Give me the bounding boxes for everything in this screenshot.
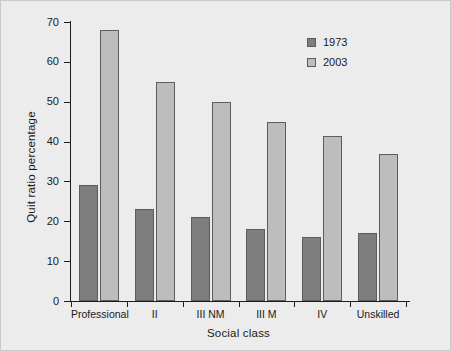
y-tick-mark xyxy=(64,62,70,63)
y-tick-mark xyxy=(64,181,70,182)
legend-swatch-icon xyxy=(307,38,316,47)
x-tick-mark xyxy=(71,302,72,307)
legend-item-1973: 1973 xyxy=(307,37,347,48)
y-tick-label: 60 xyxy=(1,56,59,67)
x-tick-label: Unskilled xyxy=(350,309,406,320)
bar-2003-iii-nm xyxy=(212,102,231,301)
chart-figure: Quit ratio percentage Social class 01020… xyxy=(0,0,451,351)
bar-1973-iv xyxy=(302,237,321,301)
y-tick-label: 50 xyxy=(1,96,59,107)
y-tick-mark xyxy=(64,221,70,222)
legend-item-2003: 2003 xyxy=(307,57,347,68)
bar-1973-unskilled xyxy=(358,233,377,301)
legend-label: 2003 xyxy=(323,57,347,68)
bar-1973-professional xyxy=(79,185,98,301)
x-tick-label: IV xyxy=(294,309,350,320)
x-tick-mark xyxy=(183,302,184,307)
y-tick-mark xyxy=(64,301,70,302)
x-tick-label: Professional xyxy=(71,309,127,320)
x-axis-line xyxy=(70,301,410,302)
bar-2003-ii xyxy=(156,82,175,301)
y-tick-label: 20 xyxy=(1,216,59,227)
x-tick-label: III NM xyxy=(183,309,239,320)
x-tick-label: II xyxy=(127,309,183,320)
x-axis-title: Social class xyxy=(71,327,406,339)
x-tick-mark xyxy=(239,302,240,307)
y-tick-mark xyxy=(64,142,70,143)
x-tick-mark xyxy=(406,302,407,307)
bar-2003-unskilled xyxy=(379,154,398,301)
x-tick-mark xyxy=(127,302,128,307)
bar-2003-iii-m xyxy=(267,122,286,301)
y-tick-label: 70 xyxy=(1,17,59,28)
y-tick-mark xyxy=(64,22,70,23)
y-tick-label: 0 xyxy=(1,296,59,307)
y-tick-label: 10 xyxy=(1,256,59,267)
plot-area xyxy=(71,22,406,301)
bar-2003-professional xyxy=(100,30,119,301)
y-tick-mark xyxy=(64,261,70,262)
y-tick-label: 30 xyxy=(1,176,59,187)
y-tick-label: 40 xyxy=(1,136,59,147)
bar-1973-iii-nm xyxy=(191,217,210,301)
legend-label: 1973 xyxy=(323,37,347,48)
x-tick-mark xyxy=(350,302,351,307)
legend-swatch-icon xyxy=(307,58,316,67)
chart-legend: 19732003 xyxy=(307,37,347,77)
bar-1973-iii-m xyxy=(246,229,265,301)
x-tick-mark xyxy=(294,302,295,307)
bar-2003-iv xyxy=(323,136,342,301)
y-tick-mark xyxy=(64,102,70,103)
bar-1973-ii xyxy=(135,209,154,301)
x-tick-label: III M xyxy=(239,309,295,320)
